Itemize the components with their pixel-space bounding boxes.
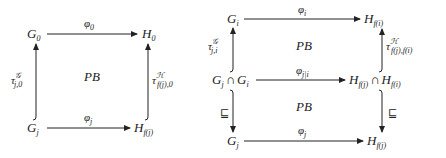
- right-pullback-diagram: Gi Hf(i) Gj∩Gi Hf(j)∩Hf(i) Gj Hf(j) φi φ…: [208, 3, 413, 150]
- label-phi-j-given-i: φj|i: [296, 64, 309, 79]
- label-sqsubseteq-left: ⊑: [220, 107, 229, 119]
- pullback-label-lower: PB: [295, 99, 312, 114]
- label-phij: φj: [298, 124, 307, 139]
- label-sqsubseteq-right: ⊑: [388, 107, 397, 119]
- hook-icon: [230, 69, 233, 72]
- node-gj: Gj: [227, 133, 239, 150]
- pullback-label: PB: [83, 69, 100, 84]
- label-tau-h-fj0: τℋf(j),0: [152, 71, 173, 89]
- diagram-canvas: G0 H0 Gj Hf(j) φ0 φj τ𝒢j,0 τℋf(j),0 PB G…: [0, 0, 446, 158]
- node-hfj: Hf(j): [366, 133, 387, 150]
- label-phij: φj: [84, 111, 93, 126]
- hook-icon: [379, 90, 382, 93]
- hook-icon: [145, 117, 148, 120]
- node-h0: H0: [141, 26, 155, 43]
- left-pullback-diagram: G0 H0 Gj Hf(j) φ0 φj τ𝒢j,0 τℋf(j),0 PB: [11, 17, 173, 137]
- label-tau-g-ji: τ𝒢j,i: [208, 37, 219, 55]
- node-gi: Gi: [227, 11, 239, 28]
- node-hfj-cap-hfi: Hf(j)∩Hf(i): [348, 72, 401, 89]
- node-hfi: Hf(i): [363, 11, 384, 28]
- hook-icon: [33, 117, 36, 120]
- pullback-label-upper: PB: [295, 38, 312, 53]
- label-phii: φi: [298, 3, 306, 18]
- node-g0: G0: [27, 26, 40, 43]
- hook-icon: [379, 69, 382, 72]
- label-phi0: φ0: [84, 17, 94, 32]
- label-tau-g-j0: τ𝒢j,0: [11, 71, 22, 89]
- node-hfj: Hf(j): [133, 120, 154, 137]
- label-tau-h-fjfi: τℋf(j),f(i): [386, 37, 413, 55]
- node-gj: Gj: [27, 120, 39, 137]
- node-gj-cap-gi: Gj∩Gi: [212, 72, 249, 89]
- hook-icon: [230, 90, 233, 93]
